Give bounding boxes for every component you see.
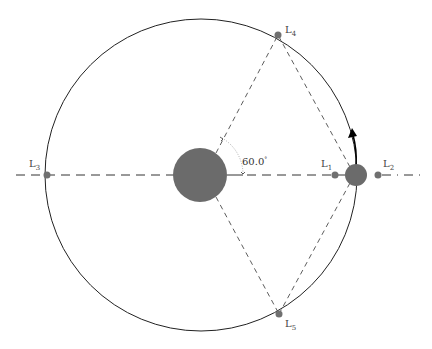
point-l3 [44,172,51,179]
lagrange-diagram: 60.0° L1 L2 L3 L4 L5 [0,0,432,349]
central-body [173,148,227,202]
planet-to-l4-line [278,35,350,167]
sun-to-l4-line [216,35,278,153]
label-l3: L3 [29,158,40,172]
label-l5: L5 [285,318,296,332]
point-l4 [275,32,282,39]
point-l2 [375,172,382,179]
planet-to-l5-line [279,183,350,314]
orbiting-body [345,164,367,186]
point-l1 [332,172,339,179]
sun-to-l5-line [216,197,279,314]
orbit-direction-arrow-icon [348,128,357,138]
label-l4: L4 [285,24,297,38]
point-l5 [276,311,283,318]
label-l1: L1 [321,158,332,172]
label-l2: L2 [383,158,394,172]
angle-arrow-top-icon [220,137,223,141]
angle-label: 60.0° [242,155,267,167]
angle-arrow-bottom-icon [241,172,245,174]
